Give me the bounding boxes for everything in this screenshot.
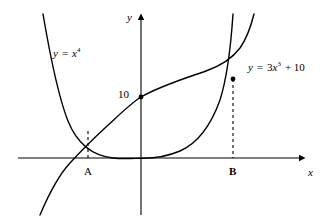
cubic-equals: = <box>257 61 263 73</box>
quartic-exponent: 4 <box>77 46 80 53</box>
cubic-lhs: y <box>248 61 253 73</box>
x-axis-label: x <box>308 167 313 178</box>
curve-label-quartic: y=x4 <box>53 48 80 59</box>
quartic-equals: = <box>62 47 68 59</box>
point-y-intercept <box>139 95 144 100</box>
x-point-label-b: B <box>229 166 236 177</box>
y-axis-label: y <box>127 12 132 23</box>
cubic-exponent: 3 <box>278 60 281 67</box>
curve-cubic <box>40 14 254 215</box>
cubic-constant: + 10 <box>285 61 305 73</box>
quartic-lhs: y <box>53 47 58 59</box>
curve-label-cubic: y=3x3+ 10 <box>248 62 305 73</box>
x-point-label-a: A <box>84 166 92 177</box>
graph-figure: y x y=x4 y=3x3+ 10 10 A B <box>0 0 335 223</box>
point-intersection-b <box>231 77 236 82</box>
graph-canvas <box>0 0 335 223</box>
y-intercept-label: 10 <box>118 89 129 100</box>
curve-quartic <box>43 14 233 159</box>
